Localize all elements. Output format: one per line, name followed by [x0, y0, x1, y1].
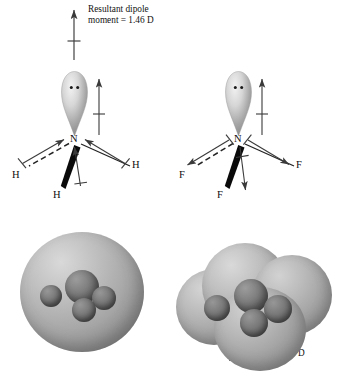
- nf3-atom-fluorine-right: [264, 295, 292, 323]
- nf3-bond-left-dashed: [196, 144, 233, 167]
- nh3-substituent-label-left: H: [12, 170, 20, 181]
- nh3-bond-left-dashed: [29, 144, 69, 167]
- nh3-space-filling-model: [18, 228, 158, 360]
- nh3-lone-pair-lobe: [62, 72, 88, 137]
- nf3-atom-fluorine-left: [204, 295, 230, 321]
- nf3-atom-fluorine-bottom: [240, 309, 268, 337]
- nf3-substituent-label-bottom: F: [217, 190, 223, 201]
- nh3-atom-hydrogen-left: [40, 285, 62, 307]
- nf3-lonepair-dipole-arrow: [256, 79, 268, 135]
- nh3-substituent-label-right: H: [132, 160, 140, 171]
- nf3-substituent-label-left: F: [179, 170, 185, 181]
- nf3-atom-nitrogen: [234, 279, 268, 313]
- nh3-atom-hydrogen-bottom: [72, 298, 96, 322]
- nh3-substituent-label-bottom: H: [53, 190, 61, 201]
- nh3-caption-line1: Resultant dipole: [88, 4, 149, 14]
- nf3-bond-bottom-wedge: [225, 145, 245, 189]
- nf3-lone-pair-lobe: [226, 72, 252, 137]
- nh3-caption-line2: moment = 1.46 D: [88, 15, 154, 26]
- figure-canvas: Resultant dipole moment = 1.46 D Resulta…: [0, 0, 339, 374]
- nf3-center-atom-label: N: [234, 134, 242, 145]
- nf3-substituent-label-right: F: [296, 160, 302, 171]
- nh3-resultant-dipole-arrow: [68, 10, 81, 60]
- nh3-center-atom-label: N: [70, 134, 78, 145]
- nf3-space-filling-model: [176, 243, 332, 371]
- nh3-lonepair-dipole-arrow: [93, 79, 105, 135]
- nh3-resultant-caption: Resultant dipole moment = 1.46 D: [88, 4, 154, 26]
- nh3-structure: [18, 10, 130, 189]
